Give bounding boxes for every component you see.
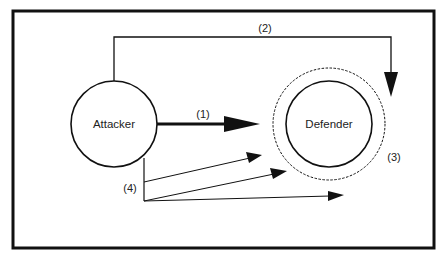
annotation-3-label: (3) [387,151,400,163]
edge-1-arrowhead [224,116,260,132]
edge-2: (2) [114,22,398,97]
attacker-label: Attacker [93,118,135,130]
edge-4-branch-1-arrowhead [246,152,262,163]
edge-1-label: (1) [196,108,209,120]
edge-4-label: (4) [123,182,136,194]
edge-2-label: (2) [258,22,271,34]
attacker-node: Attacker [71,81,157,167]
edge-4-branch-3-arrowhead [328,191,344,201]
edge-2-arrowhead [384,72,398,97]
edge-4-branch-2-arrowhead [270,168,287,179]
edge-4-branch-3 [144,196,330,201]
edge-2-line [114,37,391,81]
attack-diagram: (2) Attacker Defender (1) (3) (4) [0,0,445,263]
edge-4-branch-1 [144,158,250,182]
defender-label: Defender [305,118,352,130]
defender-node: Defender [273,68,385,180]
edge-1: (1) [157,108,260,132]
